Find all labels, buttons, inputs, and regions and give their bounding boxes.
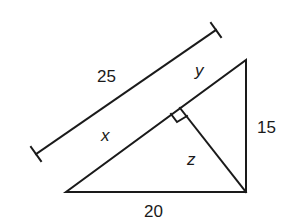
right-triangle [66, 60, 246, 192]
label-20: 20 [144, 203, 163, 219]
dimension-tick-right [211, 23, 221, 37]
dimension-tick-left [31, 147, 41, 161]
triangle-diagram [0, 0, 292, 219]
label-y: y [195, 62, 204, 79]
label-25: 25 [97, 68, 116, 85]
label-x: x [101, 127, 110, 144]
geometry-figure: 25 y x z 15 20 [0, 0, 292, 219]
label-15: 15 [257, 119, 276, 136]
dimension-line-25 [36, 30, 216, 154]
label-z: z [187, 151, 196, 168]
